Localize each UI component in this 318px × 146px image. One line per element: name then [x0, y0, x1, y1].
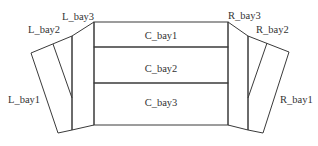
- r-bay3-region: [228, 22, 248, 130]
- l-bay1-region: [31, 36, 72, 133]
- r-bay2-label: R_bay2: [256, 24, 289, 35]
- right-section: [228, 22, 289, 133]
- c-bay2-label: C_bay2: [145, 63, 178, 74]
- l-bay2-label: L_bay2: [28, 24, 60, 35]
- l-bay3-label: L_bay3: [62, 11, 94, 22]
- bay-layout-diagram: C_bay1 C_bay2 C_bay3 L_bay3 L_bay2 L_bay…: [0, 0, 318, 146]
- c-bay1-label: C_bay1: [145, 30, 178, 41]
- l-bay1-label: L_bay1: [8, 94, 40, 105]
- r-bay1-region: [248, 36, 289, 133]
- r-bay1-label: R_bay1: [280, 94, 313, 105]
- l-bay2-divider: [53, 44, 72, 98]
- c-bay3-label: C_bay3: [145, 97, 178, 108]
- r-bay2-divider: [248, 43, 267, 98]
- l-bay3-region: [72, 22, 94, 130]
- left-section: [31, 22, 94, 133]
- r-bay3-label: R_bay3: [228, 10, 261, 21]
